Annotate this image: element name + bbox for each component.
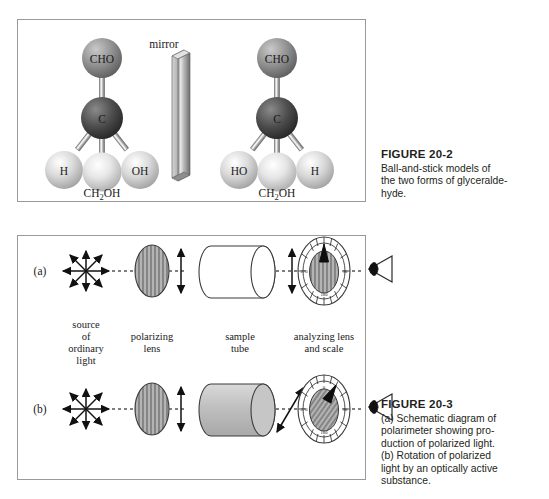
figure-20-3-caption-line-2: polarimeter showing pro- <box>381 425 541 437</box>
polarimeter-row-b: (b) <box>33 375 362 443</box>
figure-20-3-caption-line-3: duction of polarized light. <box>381 438 541 450</box>
svg-text:light: light <box>76 355 95 366</box>
analyzer-disc-b <box>310 389 339 431</box>
atom-label-h-left: H <box>60 165 68 177</box>
figure-20-2-caption-line-1: Ball-and-stick models of <box>381 163 541 175</box>
component-labels-group: source of ordinary light polarizing lens… <box>68 319 354 366</box>
svg-text:tube: tube <box>231 343 249 354</box>
light-source-star-a <box>63 251 109 291</box>
figure-20-2-caption-line-2: the two forms of glyceralde- <box>381 175 541 187</box>
atom-label-carbon-right: C <box>273 113 281 125</box>
atom-label-carbon-left: C <box>98 113 106 125</box>
figure-20-3-caption-line-6: substance. <box>381 475 541 487</box>
figure-20-3-caption-line-1: (a) Schematic diagram of <box>381 413 541 425</box>
label-sample-tube: sample tube <box>225 331 255 354</box>
atom-sphere-ch2oh-left <box>83 153 122 192</box>
svg-text:analyzing lens: analyzing lens <box>294 331 354 342</box>
analyzing-lens-dial-a: 0 90 180 270 <box>298 237 350 305</box>
dial-label-right-a: 90 <box>343 269 348 274</box>
atom-sphere-ch2oh-right <box>258 153 297 192</box>
atom-label-cho-left: CHO <box>90 53 114 65</box>
dial-label-right-b: 90 <box>343 407 348 412</box>
svg-text:polarizing: polarizing <box>131 331 174 342</box>
sample-tube-a <box>199 246 275 298</box>
mirror-object <box>172 50 190 181</box>
molecule-left: CHO C H OH CH2OH <box>45 38 159 201</box>
figure-20-2-caption-line-3: hyde. <box>381 188 541 200</box>
figure-20-2-illustration: CHO C H OH CH2OH mirror <box>18 20 365 201</box>
atom-label-ho-right: HO <box>231 165 248 177</box>
figure-20-3-caption: FIGURE 20-3 (a) Schematic diagram of pol… <box>381 398 541 487</box>
sample-tube-b <box>199 384 275 436</box>
figure-20-3-caption-line-4: (b) Rotation of polarized <box>381 450 541 462</box>
dial-label-left-a: 270 <box>301 269 309 274</box>
polarizing-lens-b <box>135 383 169 435</box>
figure-20-3-caption-title: FIGURE 20-3 <box>381 398 541 410</box>
atom-label-cho-right: CHO <box>265 53 289 65</box>
atom-label-oh-left: OH <box>132 165 149 177</box>
svg-text:lens: lens <box>144 343 161 354</box>
atom-label-h-right: H <box>311 165 319 177</box>
figure-20-2-caption: FIGURE 20-2 Ball-and-stick models of the… <box>381 148 541 200</box>
figure-20-2-caption-title: FIGURE 20-2 <box>381 148 541 160</box>
row-label-a: (a) <box>34 265 47 278</box>
label-analyzing-lens: analyzing lens and scale <box>294 331 354 354</box>
figure-20-3-illustration: (a) <box>18 236 365 479</box>
dial-label-left-b: 270 <box>301 407 309 412</box>
molecule-right: CHO C HO H CH2OH <box>220 38 334 201</box>
label-polarizing-lens: polarizing lens <box>131 331 174 354</box>
polarizing-lens-a <box>135 245 169 297</box>
row-label-b: (b) <box>33 403 47 416</box>
svg-text:ordinary: ordinary <box>68 343 104 354</box>
figure-20-2-panel: CHO C H OH CH2OH mirror <box>17 19 366 202</box>
figure-20-3-caption-line-5: light by an optically active <box>381 463 541 475</box>
light-source-star-b <box>63 389 109 429</box>
eye-icon-a <box>366 253 394 285</box>
svg-text:and scale: and scale <box>305 343 344 354</box>
polarimeter-row-a: (a) <box>34 237 362 305</box>
analyzing-lens-dial-b: 0 90 180 270 <box>298 375 350 443</box>
svg-text:sample: sample <box>225 331 255 342</box>
figure-20-3-panel: (a) <box>17 235 366 480</box>
mirror-label: mirror <box>149 38 179 50</box>
label-light-source: source of ordinary light <box>68 319 104 366</box>
svg-text:of: of <box>82 331 91 342</box>
svg-text:source: source <box>72 319 100 330</box>
